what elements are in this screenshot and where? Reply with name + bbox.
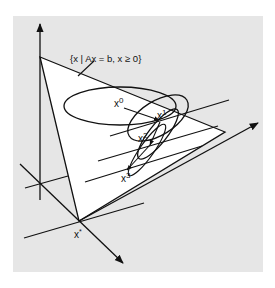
interior-point-diagram: {x | Ax = b, x ≥ 0} x0 x1 x2 x3 x* (0, 0, 275, 288)
set-label: {x | Ax = b, x ≥ 0} (70, 53, 141, 64)
